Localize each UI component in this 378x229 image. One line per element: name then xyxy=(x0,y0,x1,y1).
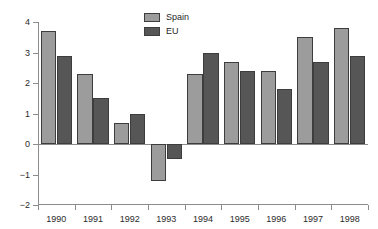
bar-eu-1996 xyxy=(277,89,293,144)
x-tick-mark xyxy=(75,205,76,210)
y-tick-label: 1 xyxy=(25,109,30,119)
bar-spain-1996 xyxy=(261,71,277,144)
y-tick-mark xyxy=(33,114,38,115)
x-tick-label: 1992 xyxy=(120,214,140,224)
x-tick-mark xyxy=(148,205,149,210)
y-tick-mark xyxy=(33,144,38,145)
x-tick-label: 1996 xyxy=(266,214,286,224)
x-tick-mark xyxy=(331,205,332,210)
y-tick-mark xyxy=(33,83,38,84)
x-tick-label: 1995 xyxy=(230,214,250,224)
y-tick-label: −1 xyxy=(20,170,30,180)
bar-eu-1991 xyxy=(93,98,109,144)
bar-eu-1995 xyxy=(240,71,256,144)
bar-eu-1992 xyxy=(130,114,146,145)
x-tick-mark xyxy=(295,205,296,210)
bar-eu-1998 xyxy=(350,56,366,144)
y-tick-label: 3 xyxy=(25,48,30,58)
bar-spain-1991 xyxy=(77,74,93,144)
legend-label-spain: Spain xyxy=(166,12,189,22)
y-tick-label: 0 xyxy=(25,139,30,149)
bar-spain-1993 xyxy=(151,144,167,181)
y-tick-mark xyxy=(33,175,38,176)
x-tick-mark xyxy=(111,205,112,210)
y-axis-line xyxy=(38,22,39,205)
bar-spain-1992 xyxy=(114,123,130,144)
x-tick-mark xyxy=(368,205,369,210)
bar-eu-1993 xyxy=(167,144,183,159)
bar-spain-1995 xyxy=(224,62,240,144)
x-tick-label: 1990 xyxy=(46,214,66,224)
x-tick-label: 1991 xyxy=(83,214,103,224)
x-tick-label: 1994 xyxy=(193,214,213,224)
y-tick-label: −2 xyxy=(20,200,30,210)
y-tick-mark xyxy=(33,53,38,54)
x-tick-mark xyxy=(258,205,259,210)
x-tick-mark xyxy=(185,205,186,210)
x-tick-mark xyxy=(221,205,222,210)
plot-area: 43210−1−2 199019911992199319941995199619… xyxy=(38,22,368,205)
bar-spain-1997 xyxy=(297,37,313,144)
bar-spain-1994 xyxy=(187,74,203,144)
bar-eu-1997 xyxy=(313,62,329,144)
y-tick-mark xyxy=(33,22,38,23)
x-tick-label: 1997 xyxy=(303,214,323,224)
bar-spain-1998 xyxy=(334,28,350,144)
x-axis-line xyxy=(38,204,368,205)
y-tick-label: 4 xyxy=(25,17,30,27)
bar-eu-1994 xyxy=(203,53,219,145)
bar-chart: Spain EU 43210−1−2 199019911992199319941… xyxy=(0,0,378,229)
bar-spain-1990 xyxy=(41,31,57,144)
y-tick-label: 2 xyxy=(25,78,30,88)
x-tick-mark xyxy=(38,205,39,210)
x-tick-label: 1998 xyxy=(340,214,360,224)
x-tick-label: 1993 xyxy=(156,214,176,224)
bar-eu-1990 xyxy=(57,56,73,144)
legend-swatch-spain-icon xyxy=(144,13,160,22)
zero-baseline xyxy=(38,144,368,145)
